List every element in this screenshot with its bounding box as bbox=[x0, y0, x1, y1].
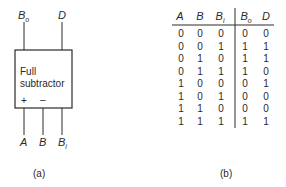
caption-a: (a) bbox=[33, 169, 45, 179]
cell: 1 bbox=[193, 104, 207, 114]
cell: 0 bbox=[259, 104, 273, 114]
caption-b: (b) bbox=[220, 169, 232, 179]
cell: 0 bbox=[214, 54, 228, 64]
cell: 0 bbox=[174, 42, 188, 52]
cell: 1 bbox=[259, 54, 273, 64]
cell: 1 bbox=[174, 92, 188, 102]
cell: 0 bbox=[238, 104, 252, 114]
cell: 0 bbox=[193, 79, 207, 89]
cell: 0 bbox=[259, 92, 273, 102]
header-a: A bbox=[170, 11, 190, 22]
cell: 1 bbox=[238, 67, 252, 77]
cell: 0 bbox=[238, 92, 252, 102]
cell: 1 bbox=[174, 104, 188, 114]
cell: 0 bbox=[193, 29, 207, 39]
input-label-a: A bbox=[20, 137, 27, 148]
block-label: Full subtractor bbox=[20, 66, 64, 90]
output-label-bo: Bo bbox=[18, 10, 29, 21]
cell: 1 bbox=[214, 92, 228, 102]
block-label-line1: Full bbox=[20, 66, 64, 78]
cell: 0 bbox=[259, 67, 273, 77]
plus-sign: + bbox=[21, 95, 27, 107]
cell: 1 bbox=[259, 79, 273, 89]
cell: 0 bbox=[193, 42, 207, 52]
cell: 0 bbox=[174, 67, 188, 77]
header-d: D bbox=[256, 11, 276, 22]
output-label-d: D bbox=[58, 10, 66, 21]
cell: 1 bbox=[238, 117, 252, 127]
cell: 0 bbox=[238, 29, 252, 39]
header-bo: Bo bbox=[236, 11, 256, 22]
cell: 1 bbox=[174, 79, 188, 89]
cell: 0 bbox=[214, 79, 228, 89]
cell: 1 bbox=[259, 42, 273, 52]
input-label-b: B bbox=[39, 137, 46, 148]
block-label-line2: subtractor bbox=[20, 78, 64, 90]
cell: 0 bbox=[259, 29, 273, 39]
cell: 1 bbox=[193, 67, 207, 77]
cell: 0 bbox=[193, 92, 207, 102]
cell: 0 bbox=[174, 29, 188, 39]
cell: 1 bbox=[259, 117, 273, 127]
cell: 1 bbox=[214, 117, 228, 127]
header-bi: Bi bbox=[210, 11, 230, 22]
cell: 0 bbox=[214, 29, 228, 39]
input-label-bi: Bi bbox=[58, 137, 67, 148]
cell: 0 bbox=[174, 54, 188, 64]
cell: 1 bbox=[214, 42, 228, 52]
cell: 0 bbox=[238, 79, 252, 89]
header-b: B bbox=[190, 11, 210, 22]
cell: 1 bbox=[193, 54, 207, 64]
cell: 1 bbox=[214, 67, 228, 77]
minus-sign: – bbox=[40, 94, 46, 106]
cell: 1 bbox=[174, 117, 188, 127]
cell: 1 bbox=[193, 117, 207, 127]
cell: 1 bbox=[238, 42, 252, 52]
cell: 0 bbox=[214, 104, 228, 114]
cell: 1 bbox=[238, 54, 252, 64]
